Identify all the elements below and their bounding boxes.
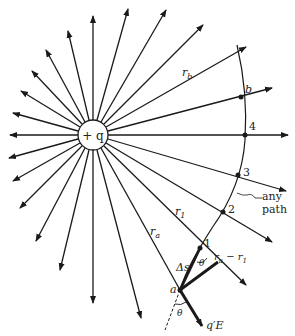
label-point-3: 3	[243, 166, 250, 179]
label-point-b: b	[245, 83, 252, 96]
label-path: path	[262, 203, 287, 216]
field-diagram: + q rb b 4 3 2 1 a any path r1 ra ra − r…	[0, 0, 295, 336]
label-point-4: 4	[249, 120, 256, 133]
point-2	[221, 210, 226, 215]
label-r-b: rb	[182, 66, 192, 81]
label-force: q′E	[206, 319, 224, 332]
charge-label: + q	[82, 129, 104, 143]
force-vector	[180, 290, 202, 326]
label-theta-lower: θ	[177, 308, 183, 318]
any-path-pointer	[237, 193, 262, 198]
point-b	[239, 95, 244, 100]
label-point-1: 1	[204, 237, 211, 250]
field-lines	[9, 9, 288, 318]
label-point-a: a	[170, 283, 177, 296]
label-theta-upper: θ	[199, 258, 205, 268]
point-4	[243, 133, 248, 138]
label-r-a: ra	[150, 225, 160, 240]
theta-arc-lower	[175, 302, 186, 305]
label-r-1: r1	[175, 205, 185, 220]
label-ra-minus-r1: ra − r1	[214, 251, 247, 265]
point-3	[236, 173, 241, 178]
label-delta-s: Δs	[175, 261, 190, 274]
labels: rb b 4 3 2 1 a any path r1 ra ra − r1 Δs…	[150, 66, 287, 332]
label-point-2: 2	[228, 203, 235, 216]
label-any: any	[262, 190, 283, 203]
